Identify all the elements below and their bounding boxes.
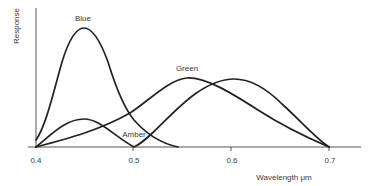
tick-label: 0.6 (226, 156, 238, 165)
label-amber: Amber (122, 130, 146, 139)
tick-label: 0.7 (324, 156, 336, 165)
spectral-response-chart: 0.4 0.5 0.6 0.7 Wavelength μm Response B… (0, 0, 387, 186)
y-axis-label: Response (12, 7, 21, 44)
x-axis-label: Wavelength μm (256, 173, 312, 182)
curve-amber (36, 79, 329, 147)
tick-label: 0.5 (128, 156, 140, 165)
x-ticks (133, 147, 329, 151)
x-tick-labels: 0.4 0.5 0.6 0.7 (30, 156, 336, 165)
curve-green (36, 78, 329, 147)
tick-label: 0.4 (30, 156, 42, 165)
label-blue: Blue (75, 14, 92, 23)
label-green: Green (176, 64, 198, 73)
